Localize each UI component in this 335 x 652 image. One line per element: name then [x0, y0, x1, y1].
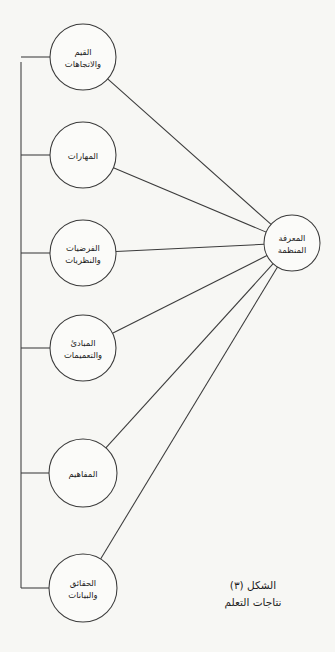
connector-hypotheses-theories-to-hub: [116, 244, 264, 251]
node-label-concepts-line1: المفاهيم: [68, 469, 97, 480]
connector-facts-data-to-hub: [101, 267, 278, 559]
node-label-principles-generalizations-line2: والتعميمات: [64, 350, 102, 360]
connector-concepts-to-hub: [106, 264, 273, 448]
hub-label-line1: المعرفة: [279, 233, 306, 243]
left-bracket: [21, 57, 50, 588]
node-hypotheses-theories[interactable]: الفرضياتوالنظريات: [50, 220, 116, 286]
connector-values-attitudes-to-hub: [108, 79, 271, 224]
node-circle-facts-data: [49, 554, 117, 622]
node-organized-knowledge[interactable]: المعرفةالمنظمة: [264, 215, 320, 271]
hub-label-line2: المنظمة: [278, 245, 306, 255]
node-label-facts-data-line2: والبيانات: [68, 590, 97, 600]
outcome-nodes: القيموالاتجاهاتالمهاراتالفرضياتوالنظريات…: [49, 24, 117, 622]
learning-outcomes-diagram: القيموالاتجاهاتالمهاراتالفرضياتوالنظريات…: [0, 0, 335, 652]
node-concepts[interactable]: المفاهيم: [49, 439, 117, 507]
node-label-values-attitudes-line2: والاتجاهات: [65, 59, 101, 69]
node-principles-generalizations[interactable]: المبادئوالتعميمات: [50, 315, 116, 381]
node-values-attitudes[interactable]: القيموالاتجاهات: [50, 24, 116, 90]
node-facts-data[interactable]: الحقائقوالبيانات: [49, 554, 117, 622]
node-circle-hypotheses-theories: [50, 220, 116, 286]
node-circle-values-attitudes: [50, 24, 116, 90]
node-label-hypotheses-theories-line2: والنظريات: [65, 255, 101, 265]
figure-container: القيموالاتجاهاتالمهاراتالفرضياتوالنظريات…: [0, 0, 335, 652]
figure-caption-number: الشكل (٣): [183, 577, 323, 593]
node-label-hypotheses-theories-line1: الفرضيات: [66, 243, 100, 253]
node-skills[interactable]: المهارات: [50, 122, 116, 188]
node-label-principles-generalizations-line1: المبادئ: [70, 338, 95, 348]
node-label-facts-data-line1: الحقائق: [70, 578, 96, 588]
figure-caption: الشكل (٣) نتاجات التعلم: [183, 577, 323, 610]
node-circle-principles-generalizations: [50, 315, 116, 381]
figure-caption-title: نتاجات التعلم: [183, 594, 323, 610]
node-label-skills-line1: المهارات: [68, 151, 98, 161]
node-label-values-attitudes-line1: القيم: [74, 47, 91, 58]
hub-circle: [264, 215, 320, 271]
connector-lines: [101, 79, 278, 559]
hub-node: المعرفةالمنظمة: [264, 215, 320, 271]
